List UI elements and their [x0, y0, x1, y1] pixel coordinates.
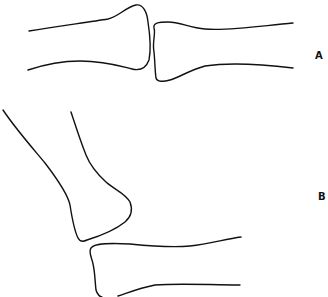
panel-label-a: A	[315, 50, 323, 61]
panel-a-right-bone	[153, 22, 293, 81]
panel-b-lower-bone	[90, 237, 241, 297]
panel-b-upper-bone	[3, 110, 132, 241]
joint-diagram	[0, 0, 328, 297]
panel-a-left-bone	[28, 5, 150, 70]
panel-label-b: B	[318, 191, 326, 202]
panel-b-lower-bone-bottom	[118, 284, 240, 296]
